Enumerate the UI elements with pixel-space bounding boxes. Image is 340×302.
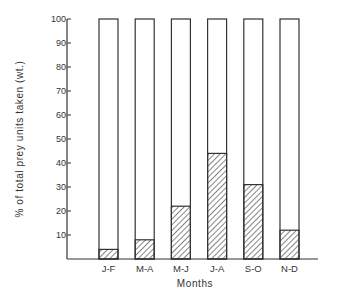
x-tick-label: M-A	[136, 263, 154, 274]
x-tick-label: J-F	[102, 263, 116, 274]
bar-outline	[135, 19, 154, 259]
bar-hatched-segment	[244, 185, 263, 259]
bar-chart: 102030405060708090100 J-FM-AM-JJ-AS-ON-D…	[0, 0, 340, 302]
y-tick-label: 20	[56, 206, 66, 216]
y-tick-label: 30	[56, 182, 66, 192]
y-axis: 102030405060708090100	[51, 14, 71, 259]
x-tick-label: M-J	[173, 263, 189, 274]
y-tick-label: 40	[56, 158, 66, 168]
y-tick-label: 50	[56, 134, 66, 144]
y-axis-title: % of total prey units taken (wt.)	[14, 60, 25, 217]
bar-s-o	[244, 19, 263, 259]
y-tick-label: 60	[56, 110, 66, 120]
x-tick-label: J-A	[210, 263, 225, 274]
y-tick-label: 70	[56, 86, 66, 96]
x-axis-title: Months	[177, 278, 213, 289]
x-tick-label: S-O	[245, 263, 262, 274]
x-tick-label: N-D	[281, 263, 298, 274]
bar-m-j	[171, 19, 190, 259]
y-tick-label: 90	[56, 38, 66, 48]
bar-outline	[99, 19, 118, 259]
y-tick-label: 10	[56, 230, 66, 240]
y-tick-label: 80	[56, 62, 66, 72]
bar-hatched-segment	[171, 206, 190, 259]
bar-hatched-segment	[208, 153, 227, 259]
x-axis: J-FM-AM-JJ-AS-ON-D	[67, 259, 318, 274]
bar-n-d	[280, 19, 299, 259]
bar-j-a	[208, 19, 227, 259]
bar-hatched-segment	[135, 240, 154, 259]
bars	[99, 19, 299, 259]
y-tick-label: 100	[51, 14, 66, 24]
bar-m-a	[135, 19, 154, 259]
bar-hatched-segment	[280, 230, 299, 259]
bar-j-f	[99, 19, 118, 259]
bar-outline	[280, 19, 299, 259]
bar-hatched-segment	[99, 249, 118, 259]
